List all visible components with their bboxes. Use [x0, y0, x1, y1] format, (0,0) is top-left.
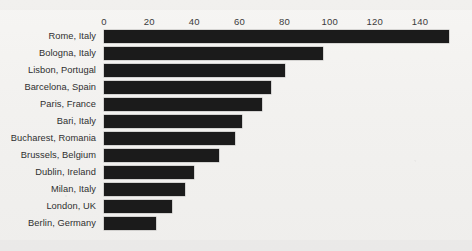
bar-row [104, 132, 235, 145]
bar-row [104, 183, 185, 196]
bar-row [104, 166, 194, 179]
bar [104, 64, 285, 77]
bar-row [104, 81, 271, 94]
bar-row [104, 217, 156, 230]
bar [104, 30, 449, 43]
bar [104, 200, 172, 213]
bar [104, 217, 156, 230]
bar [104, 183, 185, 196]
bar-chart: 020406080100120140 Rome, ItalyBologna, I… [0, 0, 472, 251]
bar-row [104, 47, 323, 60]
bar-row [104, 115, 242, 128]
bar-row [104, 200, 172, 213]
bar [104, 81, 271, 94]
bar [104, 115, 242, 128]
bar-row [104, 149, 219, 162]
bar [104, 166, 194, 179]
bar-series [0, 0, 472, 251]
bar [104, 149, 219, 162]
bar [104, 98, 262, 111]
bar-row [104, 64, 285, 77]
bar-row [104, 30, 449, 43]
bar [104, 132, 235, 145]
plot-area: 020406080100120140 Rome, ItalyBologna, I… [0, 0, 472, 251]
bar-row [104, 98, 262, 111]
bar [104, 47, 323, 60]
